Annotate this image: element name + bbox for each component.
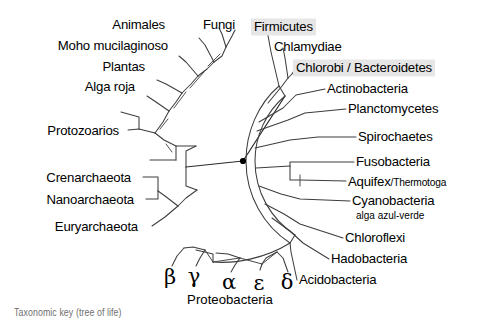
label-chlorobi-bacteroidetes-text: Chlorobi / Bacteroidetes	[293, 59, 435, 76]
label-plantas: Plantas	[102, 60, 145, 73]
branch-moho	[179, 56, 198, 76]
branch-archaea-split	[158, 191, 178, 206]
label-crenarchaeota: Crenarchaeota	[46, 171, 131, 184]
label-hadobacteria: Hadobacteria	[331, 252, 407, 265]
label-proteobacteria-group: Proteobacteria	[187, 292, 273, 307]
branch-alga-roja	[147, 96, 169, 111]
label-planctomycetes: Planctomycetes	[348, 102, 438, 115]
label-aquifex-thermotoga: Aquifex/Thermotoga	[348, 175, 446, 188]
branch-bacteria-arc-cap-bottom	[290, 235, 295, 243]
label-fungi: Fungi	[203, 18, 235, 31]
root-node-marker	[240, 158, 246, 164]
label-gamma-proteobacteria: γ	[188, 266, 201, 287]
branch-firmicutes	[267, 30, 279, 86]
branch-euk-crown-4	[198, 62, 214, 76]
label-cyanobacteria: Cyanobacteria	[352, 194, 434, 207]
branch-archaea-stem	[178, 190, 197, 206]
branch-epsilon	[260, 264, 262, 270]
branch-fuso-aquifex-stem	[256, 166, 290, 168]
branch-crenarchaeota	[143, 177, 158, 191]
taxonomic-tree-figure: Animales Fungi Moho mucilaginoso Plantas…	[0, 0, 497, 332]
branch-protozoa-upper	[128, 129, 155, 133]
label-chloroflexi: Chloroflexi	[345, 231, 405, 244]
branch-euk-main-riser	[155, 133, 176, 146]
branch-euk-inner-5	[208, 54, 220, 66]
label-alpha-proteobacteria: α	[222, 272, 236, 293]
label-firmicutes-text: Firmicutes	[251, 18, 316, 35]
label-euryarchaeota: Euryarchaeota	[55, 220, 138, 233]
label-delta-proteobacteria: δ	[281, 272, 294, 293]
branch-plantas	[157, 80, 182, 93]
label-cyanobacteria-subtitle: alga azul-verde	[356, 211, 424, 221]
label-fusobacteria: Fusobacteria	[356, 155, 430, 168]
label-alga-roja: Alga roja	[85, 80, 135, 93]
label-protozoarios: Protozoarios	[47, 124, 119, 137]
branch-cyanobacteria	[259, 186, 350, 201]
branch-bacteria-arc-cap-top	[279, 86, 285, 96]
branch-nanoarchaeota	[146, 191, 158, 199]
branch-aquifex-thermotoga	[290, 166, 346, 181]
label-beta-proteobacteria: β	[164, 267, 176, 288]
label-acidobacteria: Acidobacteria	[299, 273, 376, 286]
figure-caption: Taxonomic key (tree of life)	[14, 307, 122, 318]
branch-euk-crown-1	[155, 111, 169, 133]
label-nanoarchaeota: Nanoarchaeota	[46, 193, 134, 206]
label-moho-mucilaginoso: Moho mucilaginoso	[58, 39, 168, 52]
branch-fungi-b	[226, 30, 235, 47]
branch-proteo-comb-4	[205, 250, 213, 262]
branch-left-hub-up	[186, 146, 196, 167]
branch-fusobacteria	[290, 162, 354, 166]
branch-euk-inner-1	[166, 144, 172, 152]
branch-euk-crown-3	[182, 76, 198, 93]
branch-bacteria-inner-arc	[246, 86, 290, 243]
label-spirochaetes: Spirochaetes	[358, 130, 433, 143]
branch-euryarchaeota	[152, 206, 178, 226]
branch-protozoa-upper2	[121, 112, 139, 129]
branch-actinobacteria	[259, 89, 325, 122]
branch-euk-inner-3	[174, 92, 186, 108]
branch-animales	[199, 38, 214, 62]
branch-proteo-backbone	[213, 243, 290, 262]
branch-euk-crown-2	[169, 93, 182, 111]
label-firmicutes: Firmicutes	[251, 20, 316, 33]
branch-proteo-comb-3	[262, 252, 277, 264]
branch-root-to-left	[186, 161, 243, 167]
label-epsilon-proteobacteria: ε	[254, 273, 265, 294]
label-animales: Animales	[112, 18, 165, 31]
label-actinobacteria: Actinobacteria	[327, 82, 408, 95]
label-chlorobi-bacteroidetes: Chlorobi / Bacteroidetes	[293, 61, 435, 74]
branch-spirochaetes	[255, 137, 356, 148]
branch-beta	[172, 248, 184, 266]
label-thermotoga-text: /Thermotoga	[391, 177, 447, 188]
branch-left-hub-down	[186, 167, 197, 190]
branch-gamma-sister	[184, 247, 205, 250]
branch-alpha-sister	[216, 253, 240, 258]
label-aquifex-text: Aquifex	[348, 174, 391, 189]
label-chlamydiae: Chlamydiae	[274, 40, 342, 53]
